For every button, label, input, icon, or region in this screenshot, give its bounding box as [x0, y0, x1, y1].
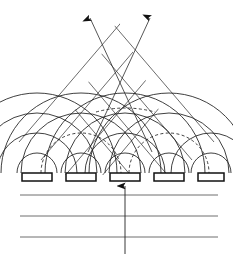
wavefront-line: [19, 0, 149, 142]
wavefront-envelope-dashed: [96, 108, 155, 112]
wavefront-line: [66, 12, 192, 160]
array-element-2: [66, 173, 96, 181]
wavelet-arc: [171, 133, 233, 173]
wavefront-line: [85, 56, 203, 196]
huygens-wavelets: [0, 93, 233, 173]
wavefront-line: [84, 0, 214, 142]
array-elements: [22, 173, 224, 181]
wavefront-set-left: [19, 0, 233, 233]
wavelet-group-element-5: [171, 133, 233, 173]
left-beam-arrow: [90, 18, 152, 152]
wavelet-arc: [65, 113, 185, 173]
right-beam-arrow: [88, 18, 150, 152]
beam-arrows: [88, 18, 152, 152]
wavefront-line: [0, 101, 104, 233]
wavefront-line: [129, 101, 233, 233]
array-element-3: [110, 173, 140, 181]
array-element-1: [22, 173, 52, 181]
wavelet-arc: [191, 153, 231, 173]
wavefront-line: [107, 78, 221, 214]
wavelet-group-element-2: [1, 93, 161, 173]
feed-network-lines: [20, 195, 218, 237]
wavelet-arc: [109, 113, 229, 173]
array-element-4: [154, 173, 184, 181]
figure-root: Phased array antenna radiating two grati…: [0, 0, 233, 254]
wavefront-line: [41, 12, 167, 160]
wavefront-line-group-left: [19, 0, 233, 233]
array-element-5: [198, 173, 224, 181]
wavelet-arc: [1, 93, 161, 173]
phased-array-diagram: [0, 0, 233, 254]
